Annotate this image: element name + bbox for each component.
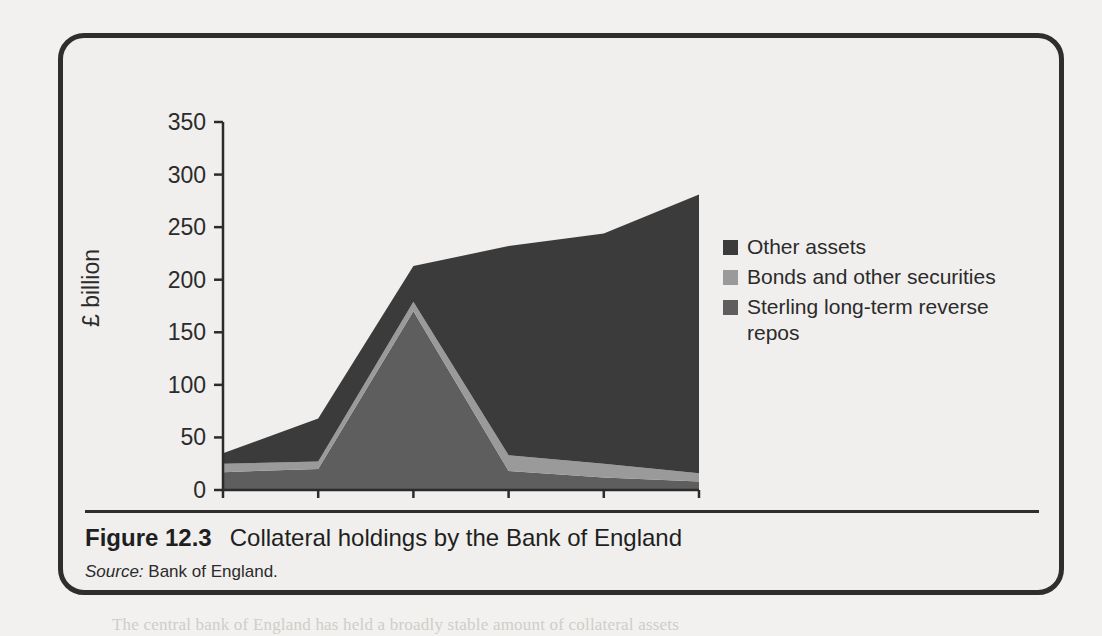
y-tick-label: 200 (168, 267, 206, 293)
source-label: Source: (85, 562, 144, 581)
legend-swatch-icon (723, 300, 738, 315)
legend-swatch-icon (723, 270, 738, 285)
figure-number: Figure 12.3 (85, 524, 212, 552)
y-tick-label: 300 (168, 162, 206, 188)
source-value: Bank of England. (148, 562, 277, 581)
y-tick-label: 150 (168, 319, 206, 345)
caption-bottom-rule (85, 590, 1039, 592)
legend-item: Other assets (723, 234, 1053, 260)
legend-item-label: Sterling long-term reverse repos (747, 294, 1042, 346)
background-text-line: The central bank of England has held a b… (112, 612, 679, 636)
legend-item: Bonds and other securities (723, 264, 1053, 290)
legend-item-label: Bonds and other securities (747, 264, 996, 290)
y-tick-label: 350 (168, 109, 206, 135)
legend-item-label: Other assets (747, 234, 866, 260)
figure-title: Collateral holdings by the Bank of Engla… (230, 524, 682, 552)
y-axis-title: £ billion (78, 249, 104, 327)
caption-top-rule (85, 510, 1039, 513)
legend-swatch-icon (723, 240, 738, 255)
y-tick-label: 50 (180, 424, 206, 450)
series-layer (223, 195, 699, 490)
legend-item: Sterling long-term reverse repos (723, 294, 1053, 346)
figure-container: 050100150200250300350 Jan 06Jan 07Jan 08… (58, 33, 1064, 595)
figure-caption: Figure 12.3 Collateral holdings by the B… (85, 524, 1039, 552)
figure-source: Source: Bank of England. (85, 562, 278, 582)
y-tick-label: 100 (168, 372, 206, 398)
y-tick-label: 0 (193, 477, 206, 498)
y-tick-label: 250 (168, 214, 206, 240)
y-tick-layer: 050100150200250300350 (168, 109, 223, 498)
chart-legend: Other assetsBonds and other securitiesSt… (723, 234, 1053, 350)
